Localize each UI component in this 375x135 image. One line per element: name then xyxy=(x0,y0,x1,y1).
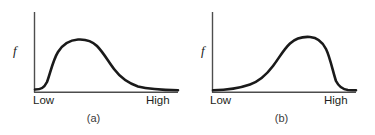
x-tick-low-a: Low xyxy=(33,95,54,107)
panel-caption-b: (b) xyxy=(188,113,375,124)
x-tick-high-a: High xyxy=(146,95,170,107)
x-tick-high-b: High xyxy=(324,95,348,107)
panel-a: f Low High (a) xyxy=(0,0,187,135)
y-axis-label-b: f xyxy=(201,44,205,57)
y-axis-label-a: f xyxy=(13,44,17,57)
panel-b: f Low High (b) xyxy=(188,0,375,135)
distribution-curve-a xyxy=(35,39,178,90)
figure-two-skewed-distributions: f Low High (a) f Low High (b) xyxy=(0,0,375,135)
panel-caption-a: (a) xyxy=(0,113,187,124)
x-tick-low-b: Low xyxy=(210,95,231,107)
distribution-curve-b xyxy=(213,37,356,90)
